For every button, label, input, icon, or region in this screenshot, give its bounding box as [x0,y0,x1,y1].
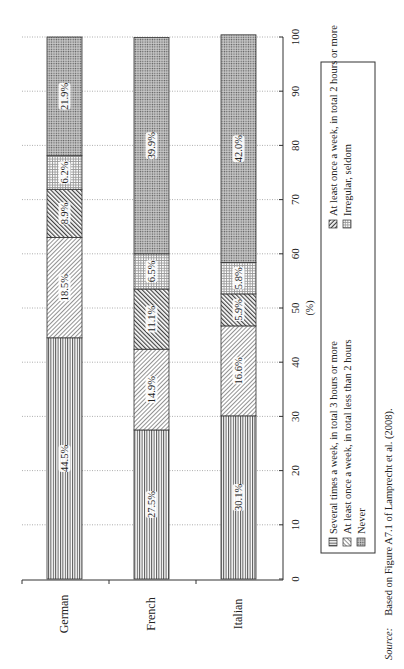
legend-swatch [343,538,351,546]
svg-text:6.5%: 6.5% [146,260,157,282]
data-label: 21.9% [59,83,71,110]
svg-text:27.5%: 27.5% [146,491,157,518]
svg-text:80: 80 [289,139,301,151]
svg-text:21.9%: 21.9% [59,83,70,110]
tick-label: 40 [289,356,301,368]
value-axis: 0102030405060708090100(%) [279,28,316,582]
svg-text:16.6%: 16.6% [233,357,244,384]
tick-label: 70 [289,194,301,206]
svg-text:At least once a week, in total: At least once a week, in total less than… [342,340,353,535]
svg-text:20: 20 [289,465,301,477]
data-label: 8.9% [59,202,71,224]
data-label: 14.9% [146,376,158,403]
svg-text:11.1%: 11.1% [146,305,157,332]
axis-title: (%) [304,301,316,316]
data-label: 18.5% [59,274,71,301]
data-label: 16.6% [233,357,245,384]
tick-label: 0 [289,576,301,582]
data-label: 5.9% [233,299,245,321]
legend-item: Never [356,508,367,546]
source-note: Source:Based on Figure A7.1 of Lamprecht… [383,408,395,660]
svg-text:30.1%: 30.1% [233,484,244,511]
bar-german: 44.5%18.5%8.9%6.2%21.9% [47,37,82,579]
data-label: 6.5% [146,260,158,282]
legend-swatch [329,220,337,228]
legend-item: At least once a week, in total 2 hours o… [328,25,339,228]
legend-swatch [329,538,337,546]
legend-swatch [343,220,351,228]
svg-text:5.9%: 5.9% [233,299,244,321]
legend-swatch [357,538,365,546]
data-label: 42.0% [233,135,245,162]
category-label: Italian [231,599,245,630]
svg-text:Never: Never [356,508,367,534]
svg-text:44.5%: 44.5% [59,445,70,472]
svg-text:Italian: Italian [231,599,245,630]
bar-italian: 30.1%16.6%5.9%5.8%42.0% [221,35,256,579]
svg-text:5.8%: 5.8% [233,267,244,289]
stacked-bar-chart: 44.5%18.5%8.9%6.2%21.9%27.5%14.9%11.1%6.… [0,0,404,669]
svg-text:(%): (%) [304,301,316,316]
svg-text:Several times a week, in total: Several times a week, in total 3 hours o… [328,341,339,534]
svg-text:Irregular, seldom: Irregular, seldom [342,144,353,216]
legend-item: At least once a week, in total less than… [342,340,353,547]
svg-text:39.9%: 39.9% [146,132,157,159]
category-axis: GermanFrenchItalian [22,580,283,633]
tick-label: 100 [289,28,301,45]
legend-item: Several times a week, in total 3 hours o… [328,341,339,546]
bar-french: 27.5%14.9%11.1%6.5%39.9% [134,38,169,579]
bars: 44.5%18.5%8.9%6.2%21.9%27.5%14.9%11.1%6.… [47,35,256,579]
svg-text:70: 70 [289,194,301,206]
legend-item: Irregular, seldom [342,144,353,228]
svg-text:14.9%: 14.9% [146,376,157,403]
svg-text:60: 60 [289,248,301,259]
svg-text:90: 90 [289,85,301,97]
data-label: 5.8% [233,267,245,289]
tick-label: 80 [289,139,301,151]
svg-text:50: 50 [289,302,301,314]
svg-text:18.5%: 18.5% [59,274,70,301]
svg-text:German: German [57,595,71,634]
svg-text:100: 100 [289,28,301,45]
tick-label: 10 [289,519,301,531]
data-label: 27.5% [146,491,158,518]
svg-text:French: French [144,597,158,630]
category-label: French [144,597,158,630]
svg-text:30: 30 [289,410,301,422]
data-label: 30.1% [233,484,245,511]
tick-label: 50 [289,302,301,314]
svg-text:40: 40 [289,356,301,368]
svg-text:10: 10 [289,519,301,531]
category-label: German [57,595,71,634]
data-label: 6.2% [59,161,71,183]
data-label: 39.9% [146,132,158,159]
svg-text:Source:Based on Figure A7.1 of: Source:Based on Figure A7.1 of Lamprecht… [383,408,395,660]
tick-label: 90 [289,85,301,97]
legend: Several times a week, in total 3 hours o… [321,25,375,553]
svg-text:42.0%: 42.0% [233,135,244,162]
svg-text:At least once a week, in total: At least once a week, in total 2 hours o… [328,25,339,216]
svg-text:6.2%: 6.2% [59,161,70,183]
data-label: 44.5% [59,445,71,472]
tick-label: 20 [289,465,301,477]
data-label: 11.1% [146,305,158,332]
tick-label: 30 [289,410,301,422]
svg-text:8.9%: 8.9% [59,202,70,224]
tick-label: 60 [289,248,301,259]
svg-text:0: 0 [289,576,301,582]
